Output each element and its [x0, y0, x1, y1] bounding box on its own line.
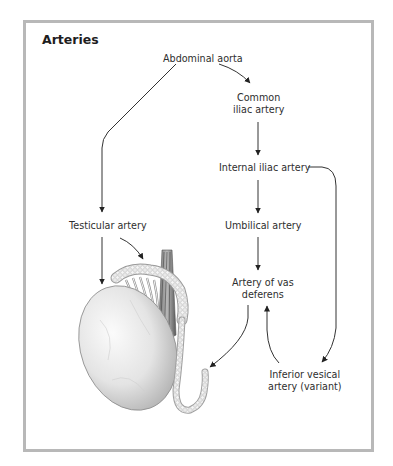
- arrow-aorta-to-common-iliac: [219, 64, 250, 83]
- arrow-testicular-to-epididymis: [120, 238, 143, 259]
- arrow-vas-deferens-to-ductus: [210, 305, 248, 367]
- arrow-aorta-to-testicular: [102, 64, 176, 212]
- arrow-internal-iliac-to-inferior-vesical: [308, 167, 336, 362]
- arrow-inferior-vesical-to-vas-deferens: [267, 306, 279, 363]
- testis-illustration: [62, 250, 205, 424]
- diagram-graphics: [0, 0, 393, 466]
